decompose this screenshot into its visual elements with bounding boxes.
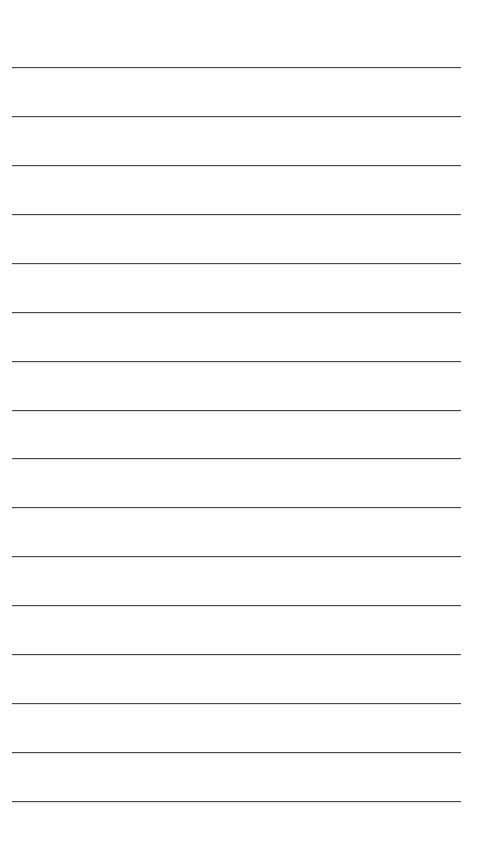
ruled-line	[12, 654, 461, 655]
ruled-line	[12, 556, 461, 557]
ruled-line	[12, 361, 461, 362]
ruled-line	[12, 165, 461, 166]
ruled-line	[12, 312, 461, 313]
ruled-line	[12, 263, 461, 264]
ruled-line	[12, 801, 461, 802]
ruled-paper-page	[0, 0, 486, 866]
ruled-line	[12, 703, 461, 704]
ruled-line	[12, 214, 461, 215]
ruled-line	[12, 507, 461, 508]
ruled-line	[12, 67, 461, 68]
ruled-line	[12, 458, 461, 459]
ruled-line	[12, 116, 461, 117]
ruled-line	[12, 410, 461, 411]
ruled-line	[12, 605, 461, 606]
ruled-line	[12, 752, 461, 753]
